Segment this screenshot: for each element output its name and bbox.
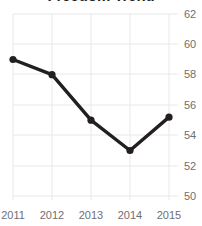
x-tick-label-2012: 2012: [32, 210, 72, 221]
y-tick-label-58: 58: [184, 69, 196, 80]
line-chart-svg: [0, 0, 202, 226]
y-tick-label-52: 52: [184, 161, 196, 172]
data-point-2012: [48, 71, 55, 78]
data-point-2014: [126, 147, 133, 154]
y-tick-label-62: 62: [184, 9, 196, 20]
x-tick-label-2013: 2013: [71, 210, 111, 221]
x-tick-label-2011: 2011: [0, 210, 33, 221]
chart-container: Freedom Trend 62 60: [0, 0, 202, 226]
data-point-2015: [165, 114, 172, 121]
plot-area: 62 60 58 56 54 52 50 2011 2012 2013 2014…: [0, 0, 202, 226]
x-tick-label-2015: 2015: [149, 210, 189, 221]
data-point-2013: [87, 117, 94, 124]
y-tick-label-54: 54: [184, 130, 196, 141]
data-point-2011: [9, 56, 16, 63]
y-tick-label-60: 60: [184, 39, 196, 50]
y-tick-label-56: 56: [184, 100, 196, 111]
vertical-gridlines: [13, 14, 169, 200]
x-tick-label-2014: 2014: [110, 210, 150, 221]
y-tick-label-50: 50: [184, 191, 196, 202]
horizontal-gridlines: [13, 14, 178, 196]
